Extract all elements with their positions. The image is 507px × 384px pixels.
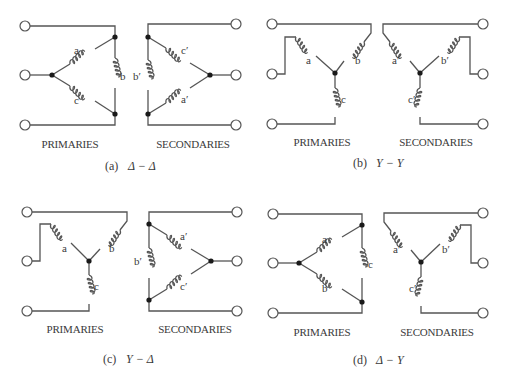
- panel-a: a b c c′ b′ a′: [20, 19, 241, 173]
- primaries-label: PRIMARIES: [47, 323, 104, 335]
- coil-label: c′: [409, 282, 416, 294]
- secondary-delta: a′ b′ c′: [134, 207, 242, 316]
- coil-label: b′: [133, 70, 141, 82]
- junction-dot-icon: [359, 222, 364, 227]
- junction-dot-icon: [207, 72, 212, 77]
- coil-label: b′: [134, 255, 142, 267]
- terminal-icon: [478, 208, 488, 218]
- coil-label: c: [341, 93, 346, 105]
- terminal-icon: [478, 19, 488, 29]
- terminal-icon: [231, 70, 241, 80]
- primary-wye: a b c: [267, 19, 371, 129]
- coil-label: a′: [181, 93, 188, 105]
- junction-dot-icon: [359, 299, 364, 304]
- junction-dot-icon: [112, 111, 117, 116]
- coil-label: a′: [393, 243, 400, 255]
- secondary-wye: a′ b′ c′: [383, 19, 488, 129]
- terminal-icon: [231, 120, 241, 130]
- terminal-icon: [22, 207, 32, 217]
- panel-d: a b c a′ b′ c′ PRIMARIES SECONDARIES (d)…: [268, 208, 488, 367]
- junction-dot-icon: [145, 34, 150, 39]
- secondary-delta: c′ b′ a′: [133, 19, 241, 130]
- junction-dot-icon: [49, 72, 54, 77]
- secondaries-label: SECONDARIES: [156, 138, 230, 150]
- junction-dot-icon: [418, 259, 423, 264]
- junction-dot-icon: [208, 258, 213, 263]
- terminal-icon: [478, 69, 488, 79]
- terminal-icon: [267, 19, 277, 29]
- terminal-icon: [478, 258, 488, 268]
- coil-label: c′: [181, 44, 188, 56]
- terminal-icon: [268, 209, 278, 219]
- coil-label: c: [368, 258, 373, 270]
- terminal-icon: [232, 306, 242, 316]
- junction-dot-icon: [112, 34, 117, 39]
- secondaries-label: SECONDARIES: [158, 323, 232, 335]
- terminal-icon: [231, 19, 241, 29]
- terminal-icon: [478, 119, 488, 129]
- terminal-icon: [20, 21, 30, 31]
- coil-label: a′: [392, 54, 399, 66]
- coil-label: b: [109, 242, 115, 254]
- primaries-label: PRIMARIES: [294, 136, 351, 148]
- coil-label: c′: [408, 93, 415, 105]
- junction-dot-icon: [86, 258, 91, 263]
- terminal-icon: [268, 258, 278, 268]
- coil-label: a: [306, 54, 311, 66]
- coil-label: b: [120, 70, 126, 82]
- caption-formula: Y − Δ: [126, 352, 154, 366]
- panel-b: a b c a′ b′ c′ PRIMARIES SECONDARIE: [267, 19, 488, 170]
- caption-prefix: (d): [353, 353, 367, 367]
- primaries-label: PRIMARIES: [42, 138, 99, 150]
- terminal-icon: [22, 306, 32, 316]
- junction-dot-icon: [146, 221, 151, 226]
- junction-dot-icon: [417, 70, 422, 75]
- coil-label: b′: [442, 243, 450, 255]
- junction-dot-icon: [146, 297, 151, 302]
- caption-formula: Δ − Y: [375, 353, 405, 367]
- coil-label: c′: [180, 280, 187, 292]
- caption-formula: Δ − Δ: [127, 159, 156, 173]
- coil-label: b: [322, 282, 328, 294]
- terminal-icon: [267, 119, 277, 129]
- primary-delta: a b c: [20, 21, 126, 130]
- terminal-icon: [268, 308, 278, 318]
- terminal-icon: [478, 308, 488, 318]
- terminal-icon: [20, 70, 30, 80]
- terminal-icon: [267, 69, 277, 79]
- secondaries-label: SECONDARIES: [400, 326, 474, 338]
- coil-label: b: [355, 54, 361, 66]
- terminal-icon: [232, 207, 242, 217]
- primary-delta: a b c: [268, 209, 373, 318]
- secondaries-label: SECONDARIES: [399, 136, 473, 148]
- coil-label: c: [74, 94, 79, 106]
- primary-wye: a b c: [22, 207, 127, 316]
- secondary-wye: a′ b′ c′: [384, 208, 488, 318]
- caption-prefix: (c): [103, 352, 116, 366]
- coil-label: a′: [180, 230, 187, 242]
- caption-formula: Y − Y: [376, 156, 405, 170]
- caption-prefix: (b): [353, 156, 367, 170]
- caption-prefix: (a): [105, 159, 118, 173]
- terminal-icon: [232, 256, 242, 266]
- coil-label: c: [94, 280, 99, 292]
- terminal-icon: [20, 120, 30, 130]
- junction-dot-icon: [296, 260, 301, 265]
- junction-dot-icon: [332, 70, 337, 75]
- junction-dot-icon: [145, 111, 150, 116]
- transformer-connections-diagram: a b c c′ b′ a′: [0, 0, 507, 384]
- coil-label: a: [74, 44, 79, 56]
- terminal-icon: [22, 256, 32, 266]
- coil-label: a: [322, 233, 327, 245]
- panel-c: a b c a′ b′ c′: [22, 207, 242, 366]
- coil-label: b′: [441, 54, 449, 66]
- coil-label: a: [62, 242, 67, 254]
- primaries-label: PRIMARIES: [294, 326, 351, 338]
